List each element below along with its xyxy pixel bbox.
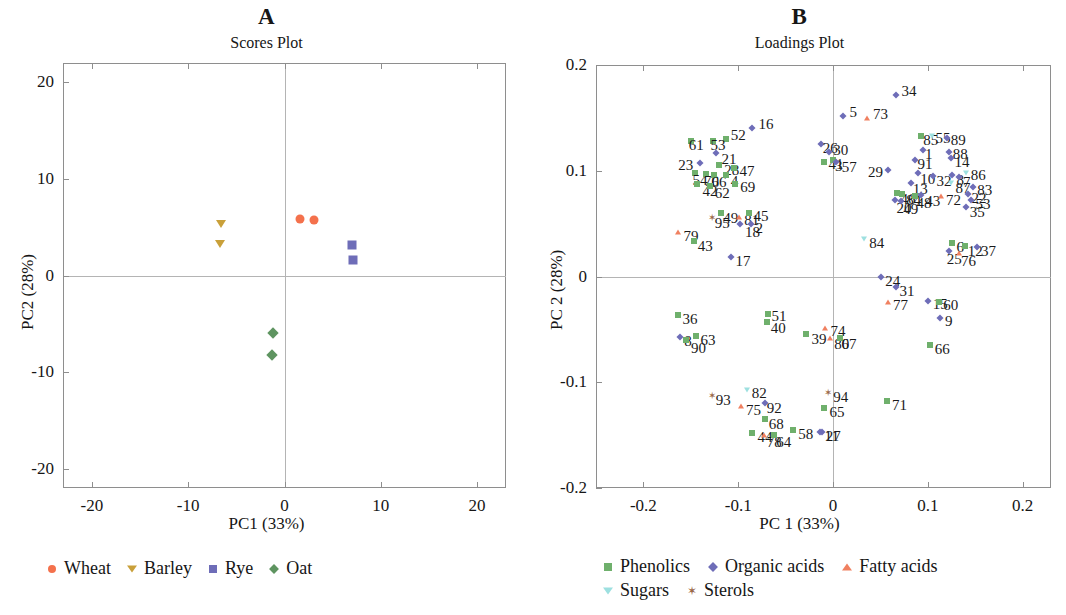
loadings-point: [765, 311, 771, 317]
loadings-point-label: 77: [893, 298, 908, 313]
y-tick-label: -0.1: [537, 372, 587, 392]
diamond-icon: [267, 562, 281, 576]
y-tick-label: 0.2: [537, 55, 587, 75]
loadings-point-label: 67: [842, 337, 857, 352]
marker-circle: [48, 565, 56, 573]
loadings-point: [861, 237, 867, 242]
loadings-point-label: 93: [716, 393, 731, 408]
y-tick: [596, 65, 602, 66]
legend-item-sterols[interactable]: ✶Sterols: [685, 580, 770, 601]
square-icon: [601, 560, 615, 574]
diamond-icon: [706, 560, 720, 574]
legend-label: Rye: [225, 558, 253, 579]
y-tick: [63, 179, 69, 180]
loadings-point: [827, 335, 833, 340]
marker-diamond: [708, 562, 718, 572]
loadings-point-label: 47: [739, 164, 754, 179]
marker-star: ✶: [687, 585, 697, 597]
legend-item-fatty-acids[interactable]: Fatty acids: [840, 556, 954, 577]
loadings-point-label: 27: [826, 429, 841, 444]
loadings-point: [803, 331, 809, 337]
legend-item-sugars[interactable]: Sugars: [601, 580, 685, 601]
x-tick-label: 10: [372, 496, 389, 516]
marker-square: [209, 565, 217, 573]
y-tick: [596, 171, 602, 172]
loadings-point: [691, 238, 697, 244]
legend-item-barley[interactable]: Barley: [125, 558, 206, 579]
loadings-point: ✶: [708, 391, 716, 401]
loadings-point-label: 71: [892, 398, 907, 413]
loadings-point-label: 39: [811, 332, 826, 347]
x-tick: [1023, 482, 1024, 488]
zero-line-horizontal: [63, 276, 506, 277]
panel-a-xlabel: PC1 (33%): [0, 514, 533, 534]
loadings-point: [899, 191, 905, 197]
legend-item-phenolics[interactable]: Phenolics: [601, 556, 706, 577]
scores-point-barley: [215, 240, 225, 248]
x-tick-top: [381, 63, 382, 69]
loadings-point-label: 69: [740, 180, 755, 195]
loadings-point: [738, 403, 744, 408]
x-tick: [833, 482, 834, 488]
loadings-point-label: 2: [756, 221, 764, 236]
loadings-point: [790, 427, 796, 433]
loadings-point: [938, 194, 944, 199]
loadings-point-label: 17: [736, 254, 751, 269]
loadings-point-label: 86: [971, 168, 986, 183]
x-tick-label: -20: [81, 496, 104, 516]
square-icon: [206, 562, 220, 576]
loadings-point-label: 49: [903, 202, 918, 217]
y-tick-label: 20: [10, 72, 54, 92]
legend-label: Wheat: [64, 558, 111, 579]
x-tick-top: [928, 65, 929, 71]
loadings-point-label: 72: [946, 193, 961, 208]
pca-figure: A Scores Plot PC2 (28%) PC1 (33%) WheatB…: [0, 0, 1066, 615]
panel-b-legend-row-1: PhenolicsOrganic acidsFatty acids: [601, 556, 954, 577]
y-tick-label: 0: [10, 266, 54, 286]
loadings-point: [948, 181, 954, 186]
legend-label: Sugars: [620, 580, 669, 601]
loadings-point-label: 61: [689, 138, 704, 153]
x-tick: [92, 482, 93, 488]
loadings-point: [675, 230, 681, 235]
legend-item-organic-acids[interactable]: Organic acids: [706, 556, 840, 577]
loadings-point-label: 35: [970, 205, 985, 220]
x-tick-top: [92, 63, 93, 69]
panel-b-legend-row-2: Sugars✶Sterols: [601, 580, 954, 601]
marker-triangle-up: [842, 563, 852, 570]
loadings-point-label: 66: [935, 342, 950, 357]
loadings-point-label: 92: [767, 401, 782, 416]
x-tick-top: [188, 63, 189, 69]
y-tick: [63, 372, 69, 373]
loadings-point: [723, 172, 729, 178]
x-tick-label: 0.1: [917, 496, 938, 516]
loadings-point: [693, 333, 699, 339]
loadings-point: [927, 342, 933, 348]
loadings-point: [884, 398, 890, 404]
loadings-point: [864, 115, 870, 120]
loadings-point-label: 37: [981, 244, 996, 259]
loadings-point-label: 14: [955, 155, 970, 170]
loadings-point-label: 16: [758, 117, 773, 132]
loadings-point: [716, 162, 722, 168]
x-tick-label: -10: [177, 496, 200, 516]
panel-b-xlabel: PC 1 (33%): [533, 514, 1066, 534]
x-tick-label: 0.2: [1012, 496, 1033, 516]
x-tick-label: 0: [280, 496, 289, 516]
legend-item-oat[interactable]: Oat: [267, 558, 326, 579]
x-tick-top: [477, 63, 478, 69]
legend-item-rye[interactable]: Rye: [206, 558, 267, 579]
panel-b-ylabel: PC 2 (28%): [547, 250, 567, 330]
panel-b-loadings: B Loadings Plot PC 2 (28%) PC 1 (33%) 57…: [533, 0, 1066, 615]
legend-label: Organic acids: [725, 556, 824, 577]
y-tick: [63, 469, 69, 470]
panel-a-legend-row: WheatBarleyRyeOat: [45, 558, 326, 579]
x-tick: [738, 482, 739, 488]
legend-item-wheat[interactable]: Wheat: [45, 558, 125, 579]
x-tick-top: [285, 63, 286, 69]
loadings-point: [885, 299, 891, 304]
x-tick: [928, 482, 929, 488]
loadings-point-label: 40: [771, 321, 786, 336]
loadings-point: [744, 387, 750, 392]
panel-b-legend: PhenolicsOrganic acidsFatty acids Sugars…: [601, 556, 954, 601]
